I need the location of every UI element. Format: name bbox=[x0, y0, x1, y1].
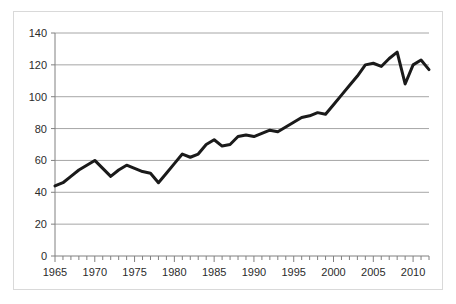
x-axis-minor-ticks-group bbox=[55, 256, 429, 262]
x-axis-tick-label: 2010 bbox=[401, 266, 425, 278]
data-series-group bbox=[55, 52, 429, 186]
x-axis-tick-label: 2000 bbox=[321, 266, 345, 278]
y-axis-labels-group: 020406080100120140 bbox=[29, 27, 47, 262]
x-axis-tick-label: 1975 bbox=[122, 266, 146, 278]
y-axis-tick-label: 40 bbox=[35, 186, 47, 198]
y-axis-tick-label: 0 bbox=[41, 250, 47, 262]
chart-figure: 020406080100120140 196519701975198019851… bbox=[0, 0, 456, 304]
y-axis-ticks-group bbox=[51, 33, 55, 256]
y-axis-tick-label: 60 bbox=[35, 154, 47, 166]
y-axis-tick-label: 120 bbox=[29, 59, 47, 71]
x-axis-tick-label: 1980 bbox=[162, 266, 186, 278]
y-axis-tick-label: 140 bbox=[29, 27, 47, 39]
x-axis-tick-label: 1990 bbox=[242, 266, 266, 278]
y-axis-tick-label: 80 bbox=[35, 123, 47, 135]
x-axis-tick-label: 1995 bbox=[281, 266, 305, 278]
x-axis-tick-label: 1985 bbox=[202, 266, 226, 278]
x-axis-tick-label: 1965 bbox=[43, 266, 67, 278]
x-axis-tick-label: 1970 bbox=[83, 266, 107, 278]
x-axis-labels-group: 1965197019751980198519901995200020052010 bbox=[43, 266, 426, 278]
gridlines-group bbox=[55, 33, 429, 224]
data-line-series-1 bbox=[55, 52, 429, 186]
y-axis-tick-label: 100 bbox=[29, 91, 47, 103]
y-axis-tick-label: 20 bbox=[35, 218, 47, 230]
chart-border: 020406080100120140 196519701975198019851… bbox=[13, 11, 443, 290]
line-chart: 020406080100120140 196519701975198019851… bbox=[14, 12, 442, 289]
x-axis-tick-label: 2005 bbox=[361, 266, 385, 278]
